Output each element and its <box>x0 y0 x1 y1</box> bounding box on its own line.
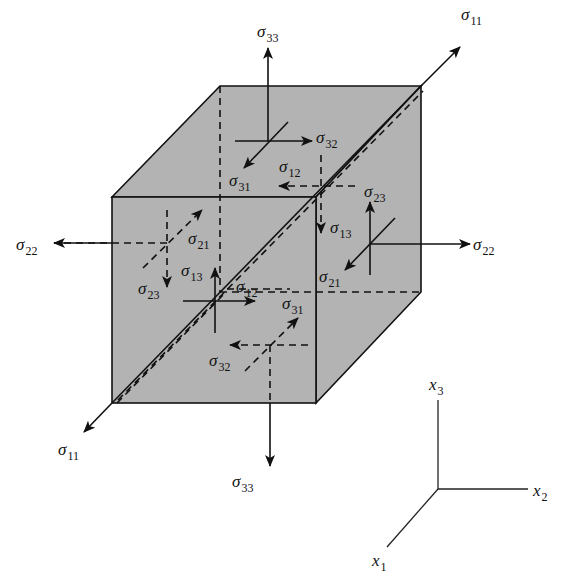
x3-label: x3 <box>428 375 444 398</box>
x2-label: x2 <box>532 481 548 504</box>
s22-left-label: σ22 <box>16 235 37 258</box>
s11-bottom-label: σ11 <box>58 440 79 463</box>
x1-axis <box>387 489 438 547</box>
x1-label: x1 <box>371 551 387 574</box>
s22-right-label: σ22 <box>473 235 494 258</box>
coordinate-axes <box>387 400 528 547</box>
stress-cube-diagram: σ11σ11σ33σ33σ22σ22σ32σ31σ12σ23σ13σ21σ21σ… <box>0 0 578 587</box>
s33-top-label: σ33 <box>257 22 278 45</box>
s11-top-label: σ11 <box>461 5 482 28</box>
s33-bottom-label: σ33 <box>232 472 253 495</box>
